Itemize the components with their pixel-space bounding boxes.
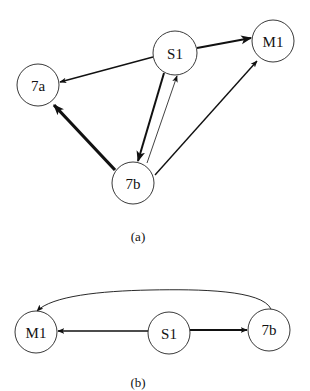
- caption-a: (a): [131, 229, 145, 244]
- edge-a-s1-to-m1: [197, 38, 251, 48]
- node-label: S1: [161, 326, 177, 342]
- node-b-m1: M1: [15, 311, 57, 353]
- edge-a-s1-to-7a: [60, 57, 153, 82]
- edge-a-7b-to-s1: [147, 76, 177, 163]
- node-a-7b: 7b: [112, 162, 154, 204]
- node-b-s1: S1: [148, 312, 190, 354]
- node-label: M1: [263, 34, 284, 50]
- node-a-s1: S1: [153, 31, 197, 75]
- node-label: 7a: [31, 78, 46, 94]
- edge-a-7b-to-m1: [155, 61, 257, 175]
- node-a-m1: M1: [252, 20, 294, 62]
- caption-b: (b): [130, 375, 145, 390]
- edge-a-7b-to-7a: [54, 105, 115, 170]
- node-b-7b: 7b: [248, 309, 290, 351]
- node-label: M1: [26, 325, 47, 341]
- edge-b-7b-to-m1: [37, 290, 271, 311]
- edge-a-s1-to-7b: [138, 73, 164, 161]
- node-a-7a: 7a: [17, 64, 59, 106]
- diagram-canvas: S1 M1 7a 7b (a) M1 S1 7b (b): [0, 0, 310, 391]
- node-label: 7b: [262, 322, 277, 338]
- node-label: 7b: [126, 176, 141, 192]
- node-label: S1: [167, 46, 183, 62]
